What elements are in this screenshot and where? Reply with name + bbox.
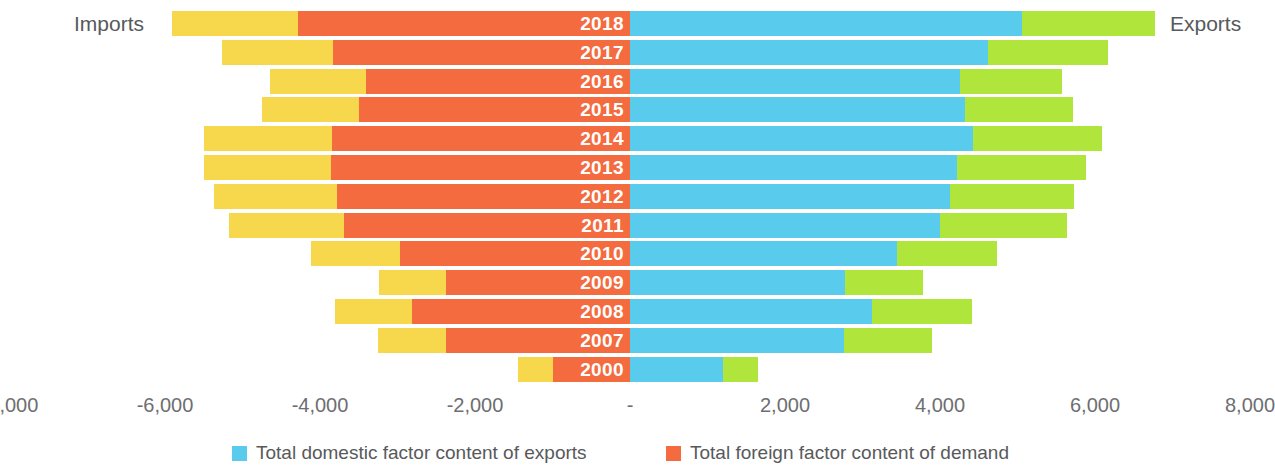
bar-segment [630, 40, 988, 65]
bar-segment [204, 155, 331, 180]
bar-segment [222, 40, 333, 65]
bar-segment [400, 241, 630, 266]
exports-caption: Exports [1170, 11, 1241, 36]
bar-segment [214, 184, 337, 209]
bar-row: 2008 [0, 299, 1262, 324]
bar-segment [378, 328, 446, 353]
legend-label: Total domestic factor content of exports [256, 442, 587, 464]
bar-row: 2014 [0, 126, 1262, 151]
bar-row: 2000 [0, 357, 1262, 382]
bar-segment [335, 299, 413, 324]
bar-segment [366, 69, 630, 94]
x-axis-tick-label: -4,000 [292, 392, 349, 418]
bar-segment [359, 97, 630, 122]
bar-segment [270, 69, 365, 94]
bar-segment [630, 357, 723, 382]
legend-label: Total foreign factor content of demand [690, 442, 1009, 464]
legend-item[interactable]: Total foreign factor content of demand [666, 440, 1009, 466]
bar-segment [332, 126, 630, 151]
bar-segment [845, 270, 923, 295]
bar-segment [333, 40, 630, 65]
bar-row: 2007 [0, 328, 1262, 353]
imports-caption: Imports [74, 11, 144, 36]
bar-segment [630, 126, 973, 151]
bar-segment [298, 11, 630, 36]
bar-segment [204, 126, 333, 151]
bar-segment [331, 155, 630, 180]
legend-swatch-icon [666, 446, 681, 461]
bar-segment [630, 299, 872, 324]
bar-segment [172, 11, 298, 36]
x-axis-tick-label: -2,000 [447, 392, 504, 418]
x-axis-tick-label: 8,000 [1225, 392, 1275, 418]
x-axis-tick-label: 6,000 [1070, 392, 1120, 418]
bar-segment [988, 40, 1108, 65]
bar-row: 2012 [0, 184, 1262, 209]
bar-segment [630, 155, 957, 180]
bar-segment [630, 11, 1022, 36]
chart-legend: Total domestic factor content of exports… [0, 440, 1262, 472]
bar-row: 2009 [0, 270, 1262, 295]
bar-segment [630, 184, 950, 209]
bar-segment [940, 213, 1067, 238]
bar-segment [344, 213, 630, 238]
bar-segment [311, 241, 399, 266]
bar-segment [630, 328, 844, 353]
bar-segment [957, 155, 1086, 180]
bar-row: 2015 [0, 97, 1262, 122]
bar-segment [630, 213, 940, 238]
bar-row: 2010 [0, 241, 1262, 266]
bar-row: 2016 [0, 69, 1262, 94]
bar-row: 2018 [0, 11, 1262, 36]
x-axis: -8,000-6,000-4,000-2,000-2,0004,0006,000… [0, 392, 1262, 426]
x-axis-tick-label: 4,000 [915, 392, 965, 418]
legend-swatch-icon [232, 446, 247, 461]
x-axis-tick-label: - [627, 392, 634, 418]
bar-segment [379, 270, 446, 295]
bar-segment [446, 328, 630, 353]
bar-segment [518, 357, 554, 382]
bar-row: 2013 [0, 155, 1262, 180]
x-axis-tick-label: 2,000 [760, 392, 810, 418]
bar-segment [965, 97, 1073, 122]
bar-segment [229, 213, 344, 238]
legend-item[interactable]: Total domestic factor content of exports [232, 440, 587, 466]
bar-segment [897, 241, 996, 266]
bar-segment [630, 69, 960, 94]
bar-segment [960, 69, 1062, 94]
bar-segment [553, 357, 630, 382]
x-axis-tick-label: -6,000 [137, 392, 194, 418]
bar-segment [630, 97, 965, 122]
bar-segment [844, 328, 932, 353]
bar-segment [1022, 11, 1155, 36]
bar-row: 2011 [0, 213, 1262, 238]
bar-segment [262, 97, 359, 122]
bar-segment [973, 126, 1102, 151]
bar-segment [950, 184, 1074, 209]
bar-segment [412, 299, 630, 324]
bar-segment [723, 357, 758, 382]
bar-segment [337, 184, 630, 209]
bar-row: 2017 [0, 40, 1262, 65]
x-axis-tick-label: -8,000 [0, 392, 38, 418]
bar-segment [872, 299, 972, 324]
bar-segment [446, 270, 630, 295]
bar-segment [630, 241, 897, 266]
plot-area: 2018201720162015201420132012201120102009… [0, 0, 1262, 392]
bar-segment [630, 270, 845, 295]
